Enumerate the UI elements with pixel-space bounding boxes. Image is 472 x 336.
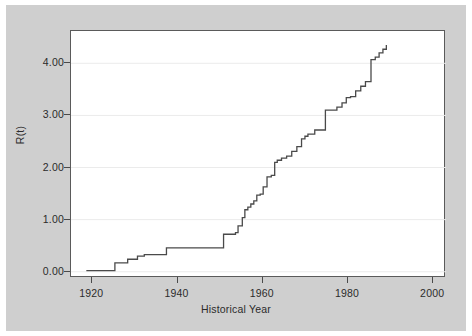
x-axis-title: Historical Year	[6, 303, 466, 315]
figure-inner: 0.001.002.003.004.00 1920194019601980200…	[6, 5, 466, 331]
x-tick-label-3: 1980	[335, 287, 359, 299]
x-tick-label-4: 2000	[420, 287, 444, 299]
figure-canvas: 0.001.002.003.004.00 1920194019601980200…	[6, 5, 466, 331]
x-tick-mark-3	[347, 277, 348, 283]
x-tick-label-2: 1960	[250, 287, 274, 299]
x-axis-title-label: Historical Year	[201, 303, 271, 315]
x-tick-mark-4	[432, 277, 433, 283]
x-tick-mark-2	[262, 277, 263, 283]
x-tick-label-0: 1920	[79, 287, 103, 299]
y-axis-title: R(t)	[14, 105, 26, 165]
x-tick-label-1: 1940	[164, 287, 188, 299]
x-tick-mark-1	[177, 277, 178, 283]
x-axis-ticks: 19201940196019802000	[6, 5, 466, 331]
x-tick-mark-0	[91, 277, 92, 283]
